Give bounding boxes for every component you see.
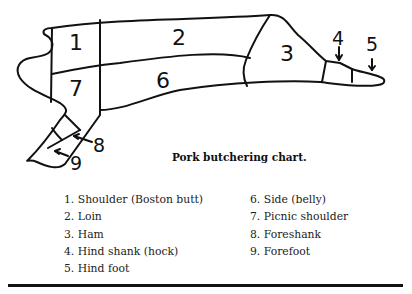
line-leg-lower xyxy=(48,130,80,148)
label-7: 7 xyxy=(69,76,83,101)
legend-item: 8. Foreshank xyxy=(250,226,348,243)
legend-item: 4. Hind shank (hock) xyxy=(64,243,203,260)
line-ham xyxy=(244,15,270,86)
line-shoulder xyxy=(51,28,52,102)
label-2: 2 xyxy=(172,25,186,50)
legend-column-2: 6. Side (belly) 7. Picnic shoulder 8. Fo… xyxy=(250,191,348,260)
label-6: 6 xyxy=(156,68,170,93)
legend-item: 9. Forefoot xyxy=(250,243,348,260)
line-horizontal xyxy=(52,54,250,74)
chart-caption: Pork butchering chart. xyxy=(172,151,307,163)
legend-item: 2. Loin xyxy=(64,208,203,225)
label-9: 9 xyxy=(70,152,82,174)
label-3: 3 xyxy=(280,41,294,66)
label-4: 4 xyxy=(332,27,344,49)
legend-item: 7. Picnic shoulder xyxy=(250,208,348,225)
line-foreshank-top xyxy=(65,115,80,130)
legend-item: 1. Shoulder (Boston butt) xyxy=(64,191,203,208)
label-1: 1 xyxy=(69,30,83,55)
legend-item: 6. Side (belly) xyxy=(250,191,348,208)
legend-item: 3. Ham xyxy=(64,226,203,243)
label-8: 8 xyxy=(93,134,105,156)
label-5: 5 xyxy=(366,33,378,55)
line-forefoot-top xyxy=(52,128,62,140)
legend-item: 5. Hind foot xyxy=(64,260,203,277)
line-hock1 xyxy=(322,61,326,82)
legend-column-1: 1. Shoulder (Boston butt) 2. Loin 3. Ham… xyxy=(64,191,203,277)
horizontal-rule xyxy=(8,284,403,287)
